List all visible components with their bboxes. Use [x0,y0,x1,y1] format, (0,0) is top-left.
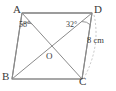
intersection-label-O: O [46,52,53,61]
vertex-label-C: C [79,76,86,87]
angle-label-58: 58° [19,21,30,29]
geometry-figure: A D C B O 58° 32° 8 cm [0,0,116,91]
angle-arc-at-D [82,21,91,25]
measure-label-8cm: 8 cm [87,36,104,45]
vertex-label-B: B [2,71,9,82]
angle-label-32: 32° [66,21,77,29]
vertex-label-D: D [94,4,102,15]
vertex-label-A: A [13,4,21,15]
